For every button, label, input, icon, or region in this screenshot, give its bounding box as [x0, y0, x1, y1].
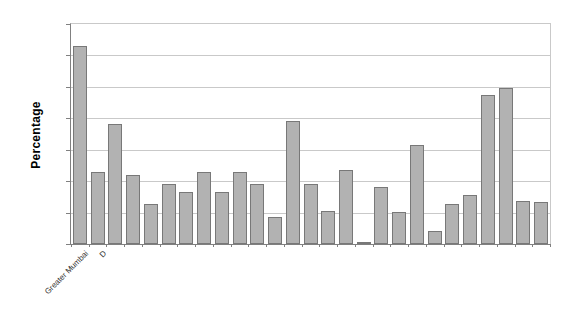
x-axis-tick	[532, 244, 533, 247]
bar	[286, 121, 300, 244]
x-axis-tick	[479, 244, 480, 247]
bar	[108, 124, 122, 244]
x-axis-tick	[355, 244, 356, 247]
bar	[516, 201, 530, 244]
bar-chart-figure: Percentage Greater MumbaiD	[0, 0, 577, 314]
x-axis-tick	[195, 244, 196, 247]
bar	[197, 172, 211, 244]
bar	[321, 211, 335, 244]
bar	[233, 172, 247, 244]
gridline	[71, 181, 550, 182]
x-axis-tick	[89, 244, 90, 247]
x-axis-tick	[231, 244, 232, 247]
x-axis-tick	[284, 244, 285, 247]
x-axis-tick	[550, 244, 551, 247]
bar	[339, 170, 353, 244]
x-axis-tick	[177, 244, 178, 247]
bar	[73, 46, 87, 244]
bar	[126, 175, 140, 244]
bar	[445, 204, 459, 244]
x-axis-tick	[408, 244, 409, 247]
x-axis-tick	[266, 244, 267, 247]
y-axis-tick	[66, 181, 71, 182]
y-axis-tick	[66, 55, 71, 56]
bar	[374, 187, 388, 244]
gridline	[71, 118, 550, 119]
x-axis-tick	[319, 244, 320, 247]
category-label: D	[98, 249, 108, 259]
bar	[534, 202, 548, 244]
y-axis-tick	[66, 118, 71, 119]
x-axis-tick	[248, 244, 249, 247]
bar	[481, 95, 495, 244]
bar	[410, 145, 424, 244]
y-axis-title: Percentage	[29, 101, 43, 169]
x-axis-tick	[213, 244, 214, 247]
y-axis-tick	[66, 24, 71, 25]
bar	[250, 184, 264, 244]
bar	[91, 172, 105, 244]
x-axis-tick	[390, 244, 391, 247]
gridline	[71, 150, 550, 151]
x-axis-tick	[373, 244, 374, 247]
plot-area	[70, 23, 551, 245]
x-axis-tick	[124, 244, 125, 247]
bar	[428, 231, 442, 244]
bar	[268, 217, 282, 244]
bar	[499, 88, 513, 245]
bar	[304, 184, 318, 244]
x-axis-tick	[497, 244, 498, 247]
x-axis-tick	[160, 244, 161, 247]
x-axis-tick	[337, 244, 338, 247]
bar	[392, 212, 406, 244]
bar	[357, 242, 371, 244]
bar	[162, 184, 176, 244]
gridline	[71, 55, 550, 56]
y-axis-tick	[66, 150, 71, 151]
x-axis-tick	[426, 244, 427, 247]
x-axis-tick	[71, 244, 72, 247]
gridline	[71, 87, 550, 88]
bar	[215, 192, 229, 244]
x-axis-tick	[106, 244, 107, 247]
x-axis-tick	[444, 244, 445, 247]
x-axis-tick	[142, 244, 143, 247]
bar	[179, 192, 193, 244]
x-axis-tick	[461, 244, 462, 247]
bar	[144, 204, 158, 244]
y-axis-tick	[66, 213, 71, 214]
bar	[463, 195, 477, 244]
x-axis-tick	[302, 244, 303, 247]
x-axis-tick	[515, 244, 516, 247]
category-label: Greater Mumbai	[43, 249, 90, 296]
y-axis-tick	[66, 87, 71, 88]
